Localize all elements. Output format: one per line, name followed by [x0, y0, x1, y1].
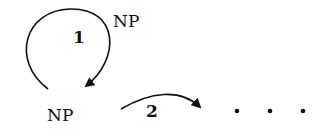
edge-2-label: 2: [146, 103, 158, 120]
np-bottom-label: NP: [47, 107, 73, 124]
arrow-2: [121, 94, 200, 109]
ellipsis-dot-1: [235, 109, 240, 114]
ellipsis-dot-3: [301, 109, 306, 114]
loop-arrow-1: [26, 9, 109, 89]
ellipsis-dot-2: [268, 109, 273, 114]
diagram-canvas: NP NP 1 2: [0, 0, 322, 136]
edge-1-label: 1: [73, 29, 85, 46]
np-top-label: NP: [113, 13, 139, 30]
